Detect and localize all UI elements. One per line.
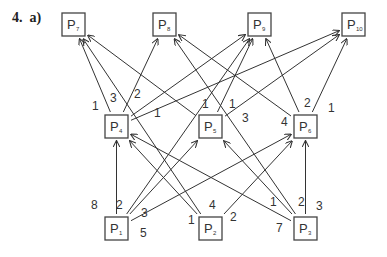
node-label: P: [67, 17, 76, 32]
weight-label: 1: [154, 106, 161, 120]
weight-label: 2: [116, 198, 123, 212]
node-label: P: [110, 119, 119, 134]
weight-label: 8: [91, 198, 98, 212]
node-p5: P5: [199, 115, 222, 138]
node-label: P: [299, 221, 308, 236]
node-label: P: [204, 119, 213, 134]
node-label: P: [110, 221, 119, 236]
weight-label: 1: [188, 213, 195, 227]
node-label: P: [299, 119, 308, 134]
node-label: P: [347, 17, 356, 32]
node-p3: P3: [294, 217, 317, 240]
weight-label: 2: [298, 195, 305, 209]
node-p1: P1: [105, 217, 128, 240]
node-subscript: 10: [356, 26, 363, 32]
weight-label: 3: [242, 111, 249, 125]
weight-label: 4: [281, 115, 288, 129]
weight-label: 3: [141, 206, 148, 220]
weight-label: 2: [304, 96, 311, 110]
node-p8: P8: [153, 13, 176, 36]
weight-label: 2: [230, 210, 237, 224]
edge-p4-p9: [131, 35, 245, 116]
node-label: P: [158, 17, 167, 32]
node-label: P: [204, 221, 213, 236]
node-p9: P9: [248, 13, 271, 36]
node-p7: P7: [62, 13, 85, 36]
weight-label: 1: [270, 195, 277, 209]
node-label: P: [253, 17, 262, 32]
weight-label: 1: [92, 99, 99, 113]
weight-label: 1: [202, 97, 209, 111]
weight-label: 4: [209, 198, 216, 212]
node-p2: P2: [199, 217, 222, 240]
edge-p2-p7: [83, 39, 201, 214]
network-diagram: P7P8P9P10P4P5P6P1P2P3 823514212371321113…: [0, 0, 387, 257]
node-p10: P10: [342, 13, 365, 36]
weight-label: 1: [328, 101, 335, 115]
weight-label: 2: [134, 87, 141, 101]
node-p6: P6: [294, 115, 317, 138]
node-p4: P4: [105, 115, 128, 138]
weight-label: 5: [140, 226, 147, 240]
weight-label: 3: [316, 199, 323, 213]
weight-label: 3: [110, 91, 117, 105]
weight-label: 1: [229, 97, 236, 111]
weight-label: 7: [276, 221, 283, 235]
